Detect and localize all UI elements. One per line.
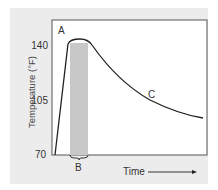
shaded-region-b	[70, 43, 88, 155]
x-axis-label: Time	[123, 167, 145, 177]
y-tick-140: 140	[22, 41, 48, 51]
brace-b	[70, 155, 88, 160]
y-axis-label: Temperature (°F)	[26, 56, 37, 128]
y-tick-70: 70	[20, 150, 46, 160]
label-a: A	[58, 26, 65, 36]
label-b: B	[75, 163, 82, 173]
label-c: C	[148, 90, 155, 100]
time-arrow-head	[192, 170, 197, 174]
